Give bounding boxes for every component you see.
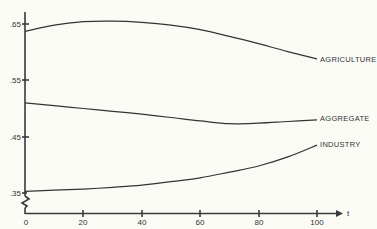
x-axis-arrow-icon <box>336 210 343 217</box>
x-tick-label: 40 <box>138 218 147 227</box>
x-axis-label: t <box>347 209 350 218</box>
industry-line <box>25 145 317 191</box>
aggregate-label: AGGREGATE <box>320 114 370 123</box>
y-tick-label: .55 <box>10 76 22 85</box>
line-chart: .65 .55 .45 .35 t 0 20 40 60 80 100 AGRI… <box>0 0 377 229</box>
industry-label: INDUSTRY <box>320 140 361 149</box>
y-tick-label: .65 <box>10 20 22 29</box>
y-tick-label: .35 <box>10 189 22 198</box>
x-axis: t 0 20 40 60 80 100 <box>24 209 350 227</box>
x-tick-label: 60 <box>196 218 205 227</box>
aggregate-line <box>25 103 317 124</box>
x-tick-label: 80 <box>255 218 264 227</box>
x-tick-label: 0 <box>24 218 29 227</box>
x-tick-label: 100 <box>310 218 324 227</box>
axis-break-icon <box>22 196 29 208</box>
y-tick-label: .45 <box>10 133 22 142</box>
y-axis: .65 .55 .45 .35 <box>10 12 29 214</box>
agriculture-label: AGRICULTURE <box>320 55 377 64</box>
agriculture-line <box>25 21 317 59</box>
x-tick-label: 20 <box>79 218 88 227</box>
